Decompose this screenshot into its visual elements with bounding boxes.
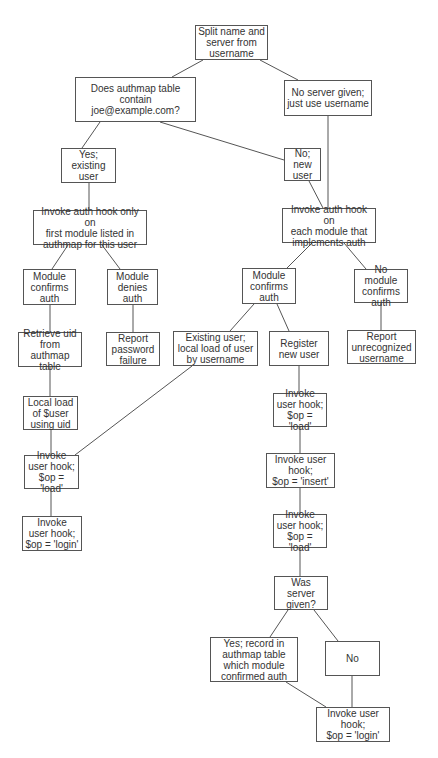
node-no-module-confirms: No module confirms auth [354, 269, 408, 303]
node-invoke-load-right-1: Invoke user hook; $op = 'load' [273, 393, 327, 427]
node-existing-user-local-load: Existing user; local load of user by use… [173, 331, 258, 366]
node-report-unrecognized-username: Report unrecognized username [347, 330, 416, 364]
node-yes-existing-user: Yes; existing user [61, 148, 116, 183]
node-invoke-login-right: Invoke user hook; $op = 'login' [316, 707, 390, 742]
node-no: No [325, 641, 380, 676]
node-was-server-given: Was server given? [274, 576, 328, 610]
node-no-server-given: No server given; just use username [284, 80, 372, 116]
node-module-confirms-right: Module confirms auth [242, 268, 296, 304]
node-invoke-login-left: Invoke user hook; $op = 'login' [22, 516, 82, 551]
node-invoke-insert: Invoke user hook; $op = 'insert' [266, 453, 335, 488]
node-register-new-user: Register new user [269, 331, 329, 366]
node-yes-record-authmap: Yes; record in authmap table which modul… [210, 637, 298, 682]
node-no-new-user: No; new user [284, 148, 321, 181]
node-report-password-failure: Report password failure [106, 332, 160, 366]
node-retrieve-uid: Retrieve uid from authmap table [18, 332, 82, 367]
node-auth-each-module: Invoke auth hook on each module that imp… [282, 208, 376, 243]
node-invoke-load-right-2: Invoke user hook; $op = 'load' [273, 514, 327, 548]
node-module-denies: Module denies auth [107, 269, 158, 305]
node-local-load-uid: Local load of $user using uid [23, 396, 78, 430]
node-invoke-load-left: Invoke user hook; $op = 'load' [24, 455, 79, 489]
node-split-username: Split name and server from username [195, 25, 268, 60]
node-module-confirms-left: Module confirms auth [23, 269, 76, 305]
node-auth-first-module: Invoke auth hook only on first module li… [33, 210, 147, 245]
node-authmap-query: Does authmap table contain joe@example.c… [75, 77, 196, 122]
